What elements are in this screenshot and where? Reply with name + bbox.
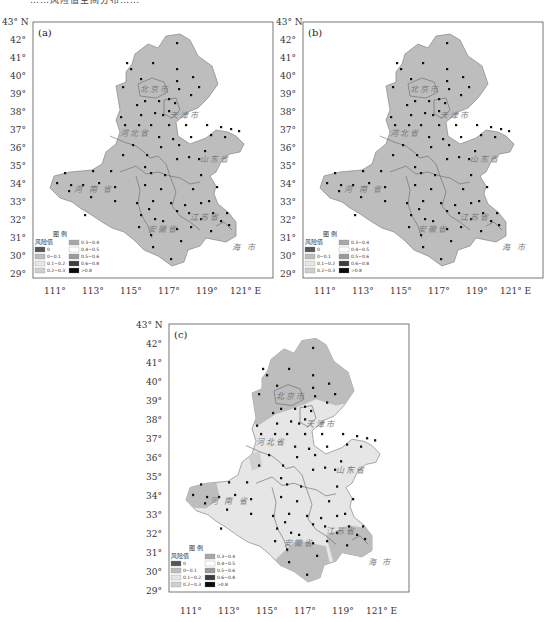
svg-text:图 例: 图 例 — [53, 230, 67, 238]
svg-text:41°: 41° — [280, 53, 296, 63]
svg-text:海 市: 海 市 — [368, 557, 392, 567]
svg-text:安徽省: 安徽省 — [148, 225, 178, 234]
svg-text:安徽省: 安徽省 — [418, 225, 448, 234]
svg-text:天津市: 天津市 — [440, 111, 470, 120]
svg-text:35°: 35° — [10, 161, 26, 171]
svg-text:山东省: 山东省 — [336, 465, 365, 475]
svg-text:37°: 37° — [280, 125, 296, 135]
svg-text:40°: 40° — [146, 377, 162, 387]
svg-text:35°: 35° — [280, 161, 296, 171]
svg-text:0: 0 — [317, 247, 320, 252]
lon-axis: 111° 113° 115° 117° 119° 121° E — [314, 286, 531, 296]
svg-text:图 例: 图 例 — [323, 230, 337, 238]
svg-text:风险值: 风险值 — [35, 238, 53, 246]
svg-text:39°: 39° — [280, 89, 296, 99]
svg-text:河北省: 河北省 — [120, 129, 150, 138]
svg-text:43° N: 43° N — [2, 17, 29, 27]
svg-text:图 例: 图 例 — [189, 544, 203, 552]
svg-text:北京市: 北京市 — [140, 85, 170, 94]
map-b-svg: 北京市 天津市 河北省 山东省 河 南 省 江苏省 安徽省 海 市 (b) 43… — [276, 12, 553, 300]
svg-text:36°: 36° — [280, 143, 296, 153]
lat-axis: 43° N 42° 41° 40° 39° 38° 37° 36° 35° 34… — [276, 17, 303, 279]
lon-axis: 111° 113° 115° 117° 119° 121° E — [180, 606, 397, 616]
svg-text:29°: 29° — [10, 269, 26, 279]
svg-text:42°: 42° — [280, 35, 296, 45]
svg-text:115°: 115° — [256, 606, 278, 616]
svg-text:121° E: 121° E — [230, 286, 261, 296]
svg-text:121° E: 121° E — [500, 286, 531, 296]
svg-text:115°: 115° — [390, 286, 412, 296]
svg-text:0.3~0.4: 0.3~0.4 — [81, 240, 99, 245]
svg-text:山东省: 山东省 — [200, 155, 230, 164]
svg-text:天津市: 天津市 — [170, 111, 200, 120]
svg-text:>0.8: >0.8 — [81, 268, 92, 273]
svg-text:江苏省: 江苏省 — [326, 526, 355, 536]
svg-text:北京市: 北京市 — [410, 85, 440, 94]
svg-text:36°: 36° — [10, 143, 26, 153]
svg-text:117°: 117° — [158, 286, 180, 296]
svg-text:35°: 35° — [146, 472, 162, 482]
lat-axis: 43° N 42° 41° 40° 39° 38° 37° 36° 35° 34… — [136, 320, 163, 596]
svg-text:0.2~0.3: 0.2~0.3 — [183, 582, 201, 587]
svg-text:0.4~0.5: 0.4~0.5 — [217, 561, 235, 566]
svg-text:0.5~0.6: 0.5~0.6 — [217, 568, 235, 573]
lat-axis: 43° N 42° 41° 40° 39° 38° 37° 36° 35° 34… — [2, 17, 29, 279]
svg-text:113°: 113° — [352, 286, 374, 296]
svg-text:34°: 34° — [146, 491, 162, 501]
svg-text:111°: 111° — [314, 286, 336, 296]
lon-axis: 111° 113° 115° 117° 119° 121° E — [44, 286, 261, 296]
svg-text:0.4~0.5: 0.4~0.5 — [81, 247, 99, 252]
svg-text:>0.8: >0.8 — [351, 268, 362, 273]
svg-text:30°: 30° — [10, 251, 26, 261]
svg-text:0.5~0.6: 0.5~0.6 — [81, 254, 99, 259]
svg-text:31°: 31° — [146, 548, 162, 558]
svg-text:0.1~0.2: 0.1~0.2 — [183, 575, 201, 580]
svg-text:0.1~0.2: 0.1~0.2 — [317, 261, 335, 266]
svg-text:119°: 119° — [196, 286, 218, 296]
svg-text:34°: 34° — [10, 179, 26, 189]
svg-text:117°: 117° — [294, 606, 316, 616]
svg-text:河北省: 河北省 — [390, 129, 420, 138]
svg-text:30°: 30° — [280, 251, 296, 261]
svg-text:119°: 119° — [466, 286, 488, 296]
svg-text:0: 0 — [183, 561, 186, 566]
svg-text:风险值: 风险值 — [171, 552, 189, 560]
svg-text:42°: 42° — [146, 339, 162, 349]
svg-text:31°: 31° — [10, 233, 26, 243]
svg-text:41°: 41° — [146, 358, 162, 368]
svg-text:0~0.1: 0~0.1 — [183, 568, 197, 573]
figure-caption-fragment: ……风险值空间分布…… — [30, 0, 330, 6]
svg-text:36°: 36° — [146, 453, 162, 463]
svg-text:>0.8: >0.8 — [217, 582, 228, 587]
svg-text:河北省: 河北省 — [256, 437, 285, 447]
svg-text:33°: 33° — [146, 510, 162, 520]
svg-text:0.2~0.3: 0.2~0.3 — [47, 268, 65, 273]
svg-text:0.3~0.4: 0.3~0.4 — [351, 240, 369, 245]
svg-text:115°: 115° — [120, 286, 142, 296]
svg-text:30°: 30° — [146, 567, 162, 577]
svg-text:北京市: 北京市 — [276, 391, 305, 401]
svg-text:32°: 32° — [10, 215, 26, 225]
svg-text:42°: 42° — [10, 35, 26, 45]
svg-text:39°: 39° — [146, 396, 162, 406]
svg-text:0.6~0.8: 0.6~0.8 — [81, 261, 99, 266]
svg-text:37°: 37° — [10, 125, 26, 135]
svg-text:38°: 38° — [146, 415, 162, 425]
svg-text:0.1~0.2: 0.1~0.2 — [47, 261, 65, 266]
svg-text:32°: 32° — [280, 215, 296, 225]
svg-text:37°: 37° — [146, 434, 162, 444]
map-a-svg: 北京市 天津市 河北省 山东省 河 南 省 江苏省 安徽省 海 市 (a) 43… — [0, 12, 280, 300]
svg-text:0.6~0.8: 0.6~0.8 — [217, 575, 235, 580]
svg-text:山东省: 山东省 — [470, 155, 500, 164]
map-panel-a: 北京市 天津市 河北省 山东省 河 南 省 江苏省 安徽省 海 市 (a) 43… — [0, 12, 280, 300]
svg-text:33°: 33° — [280, 197, 296, 207]
svg-text:河 南 省: 河 南 省 — [74, 185, 113, 194]
svg-text:江苏省: 江苏省 — [190, 213, 220, 222]
svg-text:113°: 113° — [218, 606, 240, 616]
svg-text:河 南 省: 河 南 省 — [344, 185, 383, 194]
svg-text:风险值: 风险值 — [305, 238, 323, 246]
svg-text:海 市: 海 市 — [502, 243, 527, 252]
svg-text:0: 0 — [47, 247, 50, 252]
svg-text:32°: 32° — [146, 529, 162, 539]
svg-text:34°: 34° — [280, 179, 296, 189]
